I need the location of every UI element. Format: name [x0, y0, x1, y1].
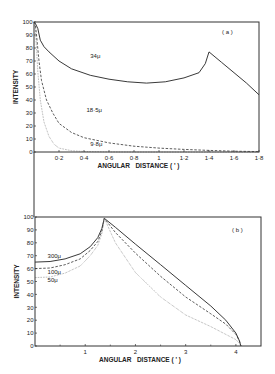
- x-tick-label: 1: [84, 349, 88, 355]
- series-line-solid: [35, 218, 241, 346]
- x-tick-label: 4: [234, 349, 238, 355]
- panel-a-y-axis-title: INTENSITY: [12, 69, 19, 104]
- series-line-dashed: [34, 22, 259, 152]
- figure: 0102030405060708090100 0·20·40·60·811·21…: [0, 0, 275, 374]
- panel-b-frame: [35, 217, 261, 346]
- panel-a-frame: [34, 22, 259, 152]
- panel-b-series-labels: 300μ100μ50μ: [48, 253, 62, 282]
- x-tick-label: 0·4: [80, 155, 89, 161]
- panel-a-curves: [34, 22, 259, 152]
- x-tick-label: 2: [134, 349, 138, 355]
- panel-b-chart: 0102030405060708090100 1234 300μ100μ50μ …: [13, 214, 261, 364]
- y-tick-label: 40: [26, 97, 33, 103]
- series-label: 9·8μ: [90, 141, 103, 147]
- panel-b-curves: [35, 218, 241, 346]
- y-tick-label: 60: [26, 71, 33, 77]
- series-label: 100μ: [48, 269, 62, 275]
- y-tick-label: 10: [27, 330, 34, 336]
- x-tick-label: 3: [184, 349, 188, 355]
- x-tick-label: 1·2: [180, 155, 189, 161]
- y-tick-label: 60: [27, 266, 34, 272]
- panel-a-chart: 0102030405060708090100 0·20·40·60·811·21…: [12, 19, 264, 170]
- x-tick-label: 0·6: [105, 155, 114, 161]
- panel-b-label: ( b ): [232, 227, 243, 233]
- y-tick-label: 80: [26, 45, 33, 51]
- panel-b-y-axis-title: INTENSITY: [13, 264, 20, 299]
- series-line-dotted: [35, 218, 241, 346]
- y-tick-label: 30: [27, 305, 34, 311]
- x-tick-label: 1·6: [230, 155, 239, 161]
- y-tick-label: 70: [26, 58, 33, 64]
- series-label: 300μ: [48, 253, 62, 259]
- x-tick-label: 1: [157, 155, 161, 161]
- y-tick-label: 20: [26, 123, 33, 129]
- y-tick-label: 10: [26, 136, 33, 142]
- x-tick-label: 0·2: [55, 155, 64, 161]
- series-label: 50μ: [48, 277, 59, 283]
- y-tick-label: 0: [30, 343, 34, 349]
- panel-a-x-axis-title: ANGULAR DISTANCE ( ' ): [98, 162, 180, 170]
- x-tick-label: 1·8: [255, 155, 264, 161]
- series-line-dotted: [34, 22, 259, 152]
- y-tick-label: 100: [22, 19, 33, 25]
- series-line-dashed: [35, 218, 241, 346]
- y-tick-label: 20: [27, 317, 34, 323]
- panel-a-label: ( a ): [222, 29, 233, 35]
- y-tick-label: 80: [27, 240, 34, 246]
- x-tick-label: 0·8: [130, 155, 139, 161]
- y-tick-label: 50: [26, 84, 33, 90]
- series-label: 18·5μ: [87, 107, 103, 113]
- panel-a-series-labels: 34μ18·5μ9·8μ: [87, 53, 103, 146]
- y-tick-label: 0: [29, 149, 33, 155]
- y-tick-label: 90: [27, 227, 34, 233]
- series-label: 34μ: [90, 53, 101, 59]
- y-tick-label: 40: [27, 292, 34, 298]
- panel-b-x-axis-title: ANGULAR DISTANCE ( ' ): [99, 356, 181, 364]
- y-tick-label: 50: [27, 279, 34, 285]
- x-tick-label: 1·4: [205, 155, 214, 161]
- y-tick-label: 30: [26, 110, 33, 116]
- y-tick-label: 70: [27, 253, 34, 259]
- y-tick-label: 100: [23, 214, 34, 220]
- y-tick-label: 90: [26, 32, 33, 38]
